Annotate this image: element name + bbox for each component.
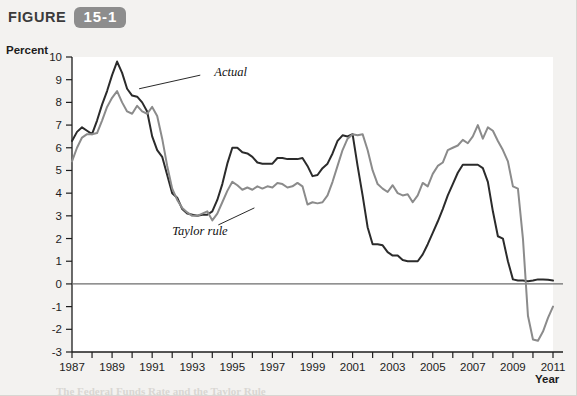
x-tick-label: 2001 xyxy=(340,361,366,373)
line-chart: 109876543210-1-2-3 198719891991199319951… xyxy=(0,0,577,396)
x-tick-label: 2011 xyxy=(541,361,566,373)
y-tick-label: 3 xyxy=(56,210,62,222)
x-tick-label: 1987 xyxy=(59,361,85,373)
plot-background xyxy=(72,57,553,352)
y-tick-label: 6 xyxy=(56,142,62,154)
y-tick-label: 10 xyxy=(49,51,62,63)
x-tick-label: 2007 xyxy=(460,361,486,373)
x-tick-label: 1991 xyxy=(139,361,165,373)
y-tick-label: 7 xyxy=(56,119,62,131)
y-tick-label: 5 xyxy=(56,164,62,176)
x-tick-label: 1999 xyxy=(300,361,326,373)
x-tick-label: 1989 xyxy=(99,361,125,373)
figure-container: FIGURE 15-1 Percent Year 109876543210-1-… xyxy=(0,0,577,396)
y-tick-label: 1 xyxy=(56,255,62,267)
x-tick-label: 1993 xyxy=(179,361,205,373)
x-tick-label: 1997 xyxy=(260,361,286,373)
y-axis-ticks: 109876543210-1-2-3 xyxy=(49,51,72,358)
y-tick-label: 9 xyxy=(56,74,62,86)
annotation-label-taylor_rule: Taylor rule xyxy=(172,224,228,238)
figure-caption: The Federal Funds Rate and the Taylor Ru… xyxy=(56,385,556,396)
y-tick-label: 2 xyxy=(56,233,62,245)
y-tick-label: -1 xyxy=(52,301,62,313)
y-tick-label: 4 xyxy=(56,187,63,199)
annotation-label-actual: Actual xyxy=(213,65,247,79)
x-tick-label: 1995 xyxy=(220,361,246,373)
x-tick-label: 2009 xyxy=(500,361,526,373)
x-tick-label: 2005 xyxy=(420,361,446,373)
y-tick-label: -2 xyxy=(52,323,62,335)
x-axis-ticks: 1987198919911993199519971999200120032005… xyxy=(59,352,565,373)
x-tick-label: 2003 xyxy=(380,361,406,373)
y-tick-label: 8 xyxy=(56,96,62,108)
y-tick-label: 0 xyxy=(56,278,62,290)
y-tick-label: -3 xyxy=(52,346,62,358)
